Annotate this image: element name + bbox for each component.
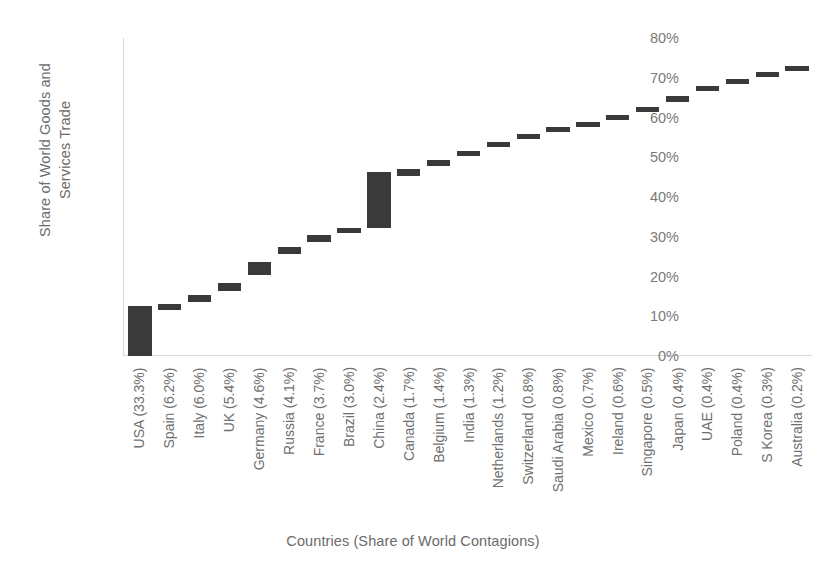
x-tick-label-text: France (3.7%) — [312, 367, 326, 456]
x-tick-label: Saudi Arabia (0.8%) — [543, 360, 573, 525]
x-tick-label: China (2.4%) — [364, 360, 394, 525]
bar-slot — [424, 38, 454, 356]
x-tick-label: Singapore (0.5%) — [633, 360, 663, 525]
x-tick-label-text: Singapore (0.5%) — [641, 367, 655, 476]
bar-slot — [244, 38, 274, 356]
bar-slot — [155, 38, 185, 356]
x-tick-label: Ireland (0.6%) — [603, 360, 633, 525]
bar — [278, 247, 301, 254]
x-tick-label-text: Ireland (0.6%) — [611, 367, 625, 455]
bar-slot — [693, 38, 723, 356]
bar — [517, 134, 540, 139]
bar — [188, 295, 211, 302]
x-tick-label: Poland (0.4%) — [722, 360, 752, 525]
y-tick-label: 20% — [619, 269, 679, 284]
bar-slot — [513, 38, 543, 356]
x-tick-label-text: China (2.4%) — [372, 367, 386, 449]
y-axis-title-line-2: Services Trade — [55, 101, 75, 199]
bar — [128, 306, 151, 356]
x-tick-label: Spain (6.2%) — [155, 360, 185, 525]
x-axis-title: Countries (Share of World Contagions) — [0, 533, 826, 549]
x-tick-label-text: S Korea (0.3%) — [760, 367, 774, 463]
bar-slot — [573, 38, 603, 356]
bar — [337, 228, 360, 233]
x-tick-label-text: USA (33.3%) — [133, 367, 147, 448]
x-tick-label: Italy (6.0%) — [185, 360, 215, 525]
x-tick-label-text: Switzerland (0.8%) — [521, 367, 535, 485]
bar-slot — [483, 38, 513, 356]
x-tick-label-text: Canada (1.7%) — [402, 367, 416, 461]
bar-slot — [274, 38, 304, 356]
x-tick-label-text: Germany (4.6%) — [252, 367, 266, 470]
x-tick-label: France (3.7%) — [304, 360, 334, 525]
bar — [307, 235, 330, 243]
bar — [397, 169, 420, 177]
x-tick-label: Japan (0.4%) — [663, 360, 693, 525]
bar — [576, 122, 599, 127]
x-tick-label-text: Saudi Arabia (0.8%) — [551, 367, 565, 492]
bar — [487, 142, 510, 147]
x-tick-label: Switzerland (0.8%) — [513, 360, 543, 525]
x-tick-label: USA (33.3%) — [125, 360, 155, 525]
bar — [218, 283, 241, 291]
x-tick-label-text: UAE (0.4%) — [700, 367, 714, 441]
bar — [726, 79, 749, 84]
bar-slot — [125, 38, 155, 356]
y-tick-label: 70% — [619, 71, 679, 86]
bar-slot — [334, 38, 364, 356]
x-tick-label: Belgium (1.4%) — [424, 360, 454, 525]
bar — [457, 151, 480, 156]
x-tick-label-text: India (1.3%) — [461, 367, 475, 442]
x-tick-label: Netherlands (1.2%) — [483, 360, 513, 525]
y-tick-label: 30% — [619, 230, 679, 245]
bar — [666, 96, 689, 102]
x-tick-label-text: Belgium (1.4%) — [432, 367, 446, 463]
x-tick-label-text: Mexico (0.7%) — [581, 367, 595, 456]
x-tick-label: Brazil (3.0%) — [334, 360, 364, 525]
bar-slot — [454, 38, 484, 356]
x-tick-label: Germany (4.6%) — [244, 360, 274, 525]
x-tick-label: Australia (0.2%) — [782, 360, 812, 525]
x-tick-labels: USA (33.3%)Spain (6.2%)Italy (6.0%)UK (5… — [125, 360, 812, 525]
bar-slot — [394, 38, 424, 356]
bars-layer — [125, 38, 812, 356]
y-tick-label: 60% — [619, 110, 679, 125]
waterfall-chart: Share of World Goods and Services Trade … — [0, 0, 826, 567]
x-tick-label-text: Japan (0.4%) — [671, 367, 685, 450]
bar — [785, 66, 808, 71]
bar-slot — [722, 38, 752, 356]
y-axis-title-line-1: Share of World Goods and — [35, 63, 55, 237]
bar-slot — [215, 38, 245, 356]
y-tick-label: 10% — [619, 309, 679, 324]
bar-slot — [185, 38, 215, 356]
y-axis-title: Share of World Goods and Services Trade — [35, 0, 75, 300]
plot-area: 80%70%60%50%40%30%20%10%0% — [125, 38, 812, 356]
x-tick-label-text: Spain (6.2%) — [163, 367, 177, 448]
bar-slot — [543, 38, 573, 356]
x-tick-label: Canada (1.7%) — [394, 360, 424, 525]
bar — [367, 172, 390, 228]
y-tick-label: 40% — [619, 190, 679, 205]
bar-slot — [752, 38, 782, 356]
bar-slot — [304, 38, 334, 356]
x-tick-label: UK (5.4%) — [215, 360, 245, 525]
x-tick-label-text: Australia (0.2%) — [790, 367, 804, 467]
bar — [696, 86, 719, 91]
x-tick-label: UAE (0.4%) — [693, 360, 723, 525]
bar — [756, 72, 779, 77]
x-tick-label-text: Poland (0.4%) — [730, 367, 744, 456]
x-tick-label-text: Brazil (3.0%) — [342, 367, 356, 447]
bar — [158, 304, 181, 310]
x-tick-label-text: Netherlands (1.2%) — [491, 367, 505, 488]
y-tick-label: 50% — [619, 150, 679, 165]
y-axis-line — [123, 38, 124, 356]
bar — [427, 160, 450, 165]
bar — [248, 262, 271, 275]
x-tick-label: S Korea (0.3%) — [752, 360, 782, 525]
x-tick-label-text: UK (5.4%) — [223, 367, 237, 432]
x-tick-label-text: Italy (6.0%) — [193, 367, 207, 438]
x-tick-label: Russia (4.1%) — [274, 360, 304, 525]
x-tick-label: Mexico (0.7%) — [573, 360, 603, 525]
x-tick-label-text: Russia (4.1%) — [282, 367, 296, 455]
x-tick-label: India (1.3%) — [454, 360, 484, 525]
